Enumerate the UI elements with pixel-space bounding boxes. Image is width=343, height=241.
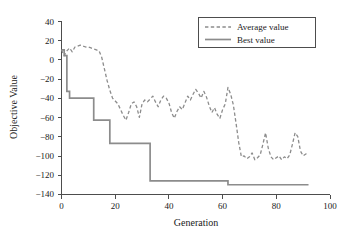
line-chart: 40 20 0 −20 −40 −60 −80 −100 −120 −140 0… bbox=[0, 0, 343, 241]
chart-figure: 40 20 0 −20 −40 −60 −80 −100 −120 −140 0… bbox=[0, 0, 343, 241]
x-tick-label-80: 80 bbox=[272, 201, 282, 211]
x-axis-title: Generation bbox=[174, 217, 218, 228]
x-tick-label-40: 40 bbox=[164, 201, 174, 211]
y-tick-label-neg20: −20 bbox=[40, 74, 55, 84]
y-tick-label-neg40: −40 bbox=[40, 93, 55, 103]
y-tick-label-20: 20 bbox=[45, 36, 55, 46]
x-tick-label-100: 100 bbox=[323, 201, 337, 211]
x-tick-labels: 0 20 40 60 80 100 bbox=[59, 201, 337, 211]
y-tick-label-neg60: −60 bbox=[40, 113, 55, 123]
chart-legend: Average value Best value bbox=[199, 18, 316, 48]
x-tick-marks bbox=[62, 195, 331, 199]
legend-label-best-value: Best value bbox=[237, 35, 275, 45]
y-tick-marks bbox=[58, 22, 62, 195]
series-line-average-value bbox=[62, 45, 309, 160]
series-line-best-value bbox=[62, 50, 309, 185]
y-tick-label-neg100: −100 bbox=[35, 151, 54, 161]
x-tick-label-0: 0 bbox=[59, 201, 64, 211]
x-tick-label-20: 20 bbox=[111, 201, 121, 211]
x-tick-label-60: 60 bbox=[218, 201, 228, 211]
y-tick-label-neg80: −80 bbox=[40, 132, 55, 142]
y-axis-title: Objective Value bbox=[8, 74, 19, 139]
y-tick-label-0: 0 bbox=[50, 55, 55, 65]
y-tick-label-neg140: −140 bbox=[35, 189, 54, 199]
legend-label-average-value: Average value bbox=[237, 22, 289, 32]
y-tick-labels: 40 20 0 −20 −40 −60 −80 −100 −120 −140 bbox=[35, 17, 54, 200]
y-tick-label-40: 40 bbox=[45, 17, 55, 27]
y-tick-label-neg120: −120 bbox=[35, 170, 54, 180]
